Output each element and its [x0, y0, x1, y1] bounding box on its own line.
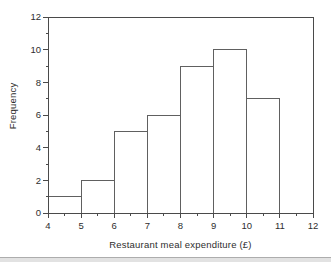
- y-tick-label: 6: [36, 109, 41, 120]
- y-tick-label: 10: [30, 44, 41, 55]
- page-bottom-scan-line: [0, 257, 331, 262]
- y-tick-label: 8: [36, 77, 41, 88]
- histogram-bar: [81, 180, 114, 213]
- x-tick-label: 4: [45, 220, 50, 231]
- y-tick-label: 2: [36, 175, 41, 186]
- histogram-bar: [214, 50, 247, 213]
- y-axis-title: Frequency: [7, 61, 19, 151]
- y-tick-label: 12: [30, 11, 41, 22]
- y-tick-label: 4: [36, 142, 41, 153]
- x-axis-title: Restaurant meal expenditure (£): [48, 239, 313, 250]
- x-tick-label: 10: [241, 220, 252, 231]
- histogram-bar: [48, 197, 81, 213]
- x-tick-label: 8: [178, 220, 183, 231]
- x-tick-label: 6: [112, 220, 117, 231]
- x-tick-label: 12: [308, 220, 319, 231]
- x-tick-label: 7: [145, 220, 150, 231]
- y-tick-label: 0: [36, 207, 41, 218]
- x-tick-label: 11: [275, 220, 285, 231]
- x-tick-label: 9: [211, 220, 216, 231]
- histogram-bar: [114, 131, 147, 213]
- x-tick-label: 5: [78, 220, 83, 231]
- histogram-bar: [147, 115, 180, 213]
- histogram-chart: 456789101112024681012: [0, 0, 331, 267]
- histogram-bar: [247, 99, 280, 213]
- histogram-bar: [181, 66, 214, 213]
- scanned-chart-page: 456789101112024681012 Frequency Restaura…: [0, 0, 331, 267]
